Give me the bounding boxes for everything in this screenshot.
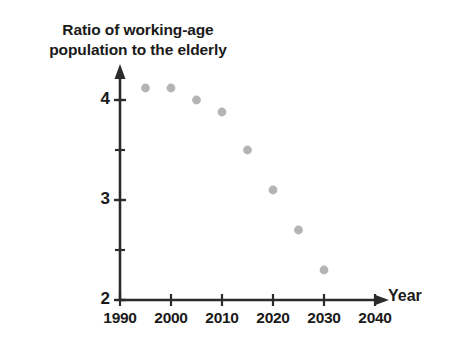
- axis-ticks: [114, 100, 375, 306]
- y-tick-label: 3: [86, 189, 110, 209]
- y-tick-label: 4: [86, 89, 110, 109]
- chart-figure: Ratio of working-age population to the e…: [0, 0, 455, 353]
- data-points: [141, 84, 328, 275]
- x-tick-label: 2030: [298, 309, 350, 327]
- x-tick-label: 2020: [247, 309, 299, 327]
- x-axis-title: Year: [388, 287, 422, 305]
- x-tick-label: 2010: [196, 309, 248, 327]
- x-tick-label: 2000: [145, 309, 197, 327]
- y-tick-label: 2: [86, 289, 110, 309]
- axes: [115, 64, 390, 306]
- plot-area: [0, 0, 455, 353]
- x-tick-label: 1990: [94, 309, 146, 327]
- x-tick-label: 2040: [349, 309, 401, 327]
